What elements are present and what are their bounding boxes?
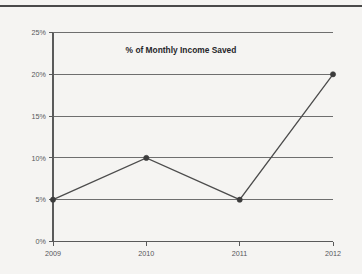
x-axis-label-2010: 2010 bbox=[138, 249, 154, 258]
data-point-2011[interactable] bbox=[237, 197, 242, 202]
y-axis-label-25: 25% bbox=[32, 28, 47, 37]
x-axis-label-2009: 2009 bbox=[45, 249, 61, 258]
y-axis-label-0: 0% bbox=[36, 237, 47, 246]
y-axis-label-10: 10% bbox=[32, 154, 47, 163]
data-series-markers bbox=[50, 72, 335, 203]
y-axis-label-5: 5% bbox=[36, 195, 47, 204]
chart-canvas: 25% 20% 15% 10% 5% 0% 2009 2010 2011 201… bbox=[0, 0, 362, 274]
data-point-2012[interactable] bbox=[330, 72, 335, 77]
y-axis-labels: 25% 20% 15% 10% 5% 0% bbox=[32, 28, 47, 246]
x-axis-labels: 2009 2010 2011 2012 bbox=[45, 249, 341, 258]
data-point-2010[interactable] bbox=[144, 155, 149, 160]
y-axis-label-15: 15% bbox=[32, 112, 47, 121]
gridlines bbox=[53, 33, 333, 200]
x-axis-label-2012: 2012 bbox=[325, 249, 341, 258]
data-series-line bbox=[53, 74, 333, 199]
chart-title: % of Monthly Income Saved bbox=[126, 45, 237, 55]
data-point-2009[interactable] bbox=[50, 197, 55, 202]
y-axis-label-20: 20% bbox=[32, 70, 47, 79]
line-chart-figure: 25% 20% 15% 10% 5% 0% 2009 2010 2011 201… bbox=[0, 0, 362, 274]
x-axis-label-2011: 2011 bbox=[232, 249, 247, 258]
